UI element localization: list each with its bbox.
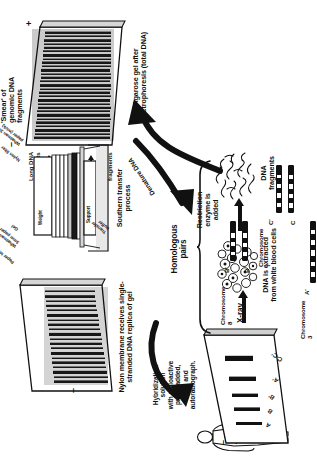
label-weight: Weight	[38, 175, 43, 225]
chromosome-7-bar-c-prime	[276, 165, 282, 213]
chromosome-7-bar-c	[288, 165, 294, 213]
label-agarose-gel: Agarose gel after electrophoresis (total…	[132, 9, 148, 145]
chromosome-3-bar-a-prime	[310, 221, 316, 283]
label-dna-fragments: DNA fragments	[260, 145, 276, 201]
membrane-negative-label: –	[68, 388, 78, 393]
label-allele-a-prime: A'	[304, 283, 311, 295]
label-chromosome-3: Chromosome 3	[300, 293, 314, 339]
nylon-membrane-plate	[14, 277, 118, 397]
diagram-canvas: Blood sample	[0, 0, 317, 463]
homologous-pairs-brace	[196, 159, 212, 335]
label-nylon-membrane: Nylon membrane receives single- stranded…	[118, 267, 134, 407]
agarose-gel-plate	[18, 19, 130, 151]
chromosome-8-bar-b	[242, 221, 248, 261]
label-southern-transfer: Southern transfer process	[116, 139, 132, 257]
label-chromosome-7: Chromosome 7	[258, 221, 272, 267]
label-chromosome-8: Chromosome 8	[220, 279, 234, 325]
label-allele-b-prime: B'	[224, 261, 231, 273]
label-allele-b: B	[244, 261, 251, 273]
label-allele-c-prime: C'	[268, 213, 275, 225]
gel-positive-electrode-label: +	[24, 21, 34, 26]
xray-negative-label: –	[218, 440, 228, 445]
chromosome-8-bar-b-prime	[230, 221, 236, 261]
figure-root: Blood sample	[0, 0, 317, 463]
label-allele-c: C	[290, 213, 297, 225]
label-hybridization: Hybridization solution with radioactive …	[152, 341, 196, 429]
label-xray: X-ray	[236, 283, 245, 323]
arrow-cells-to-fragments	[238, 205, 242, 231]
label-smear: 'Smear' of genomic DNA fragments	[0, 37, 24, 123]
xray-film-plate	[196, 325, 294, 451]
label-homologous-pairs: Homologous pairs	[170, 191, 188, 307]
